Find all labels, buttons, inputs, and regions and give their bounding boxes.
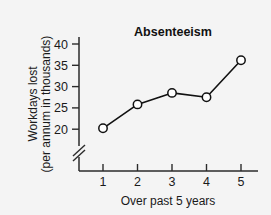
data-point-4 bbox=[202, 93, 210, 101]
x-tick-label-5: 5 bbox=[238, 175, 245, 189]
y-tick-label-35: 35 bbox=[54, 59, 68, 73]
chart-figure: Absenteeism 40 35 30 25 20 bbox=[0, 0, 271, 215]
y-tick-label-25: 25 bbox=[54, 101, 68, 115]
y-tick-label-30: 30 bbox=[54, 80, 68, 94]
absenteeism-line-chart: Absenteeism 40 35 30 25 20 bbox=[0, 0, 271, 215]
y-tick-label-20: 20 bbox=[54, 123, 68, 137]
data-point-1 bbox=[99, 124, 107, 132]
y-axis-title-line2: (per annum in thousands) bbox=[39, 36, 53, 173]
data-point-3 bbox=[168, 89, 176, 97]
x-tick-label-4: 4 bbox=[203, 175, 210, 189]
chart-title: Absenteeism bbox=[134, 25, 212, 39]
x-axis-title: Over past 5 years bbox=[121, 194, 216, 208]
data-point-2 bbox=[133, 100, 141, 108]
data-point-5 bbox=[237, 56, 245, 64]
y-tick-label-40: 40 bbox=[54, 38, 68, 52]
y-axis-title-line1: Workdays lost bbox=[26, 66, 40, 142]
x-tick-label-2: 2 bbox=[134, 175, 141, 189]
x-tick-label-3: 3 bbox=[169, 175, 176, 189]
x-tick-label-1: 1 bbox=[100, 175, 107, 189]
